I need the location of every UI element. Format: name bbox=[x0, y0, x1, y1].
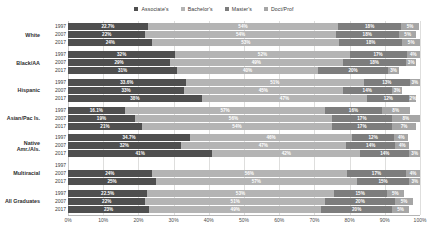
bar-segment-associates[interactable]: 22% bbox=[68, 31, 145, 38]
bar-segment-masters[interactable]: 12% bbox=[367, 95, 409, 102]
bar-segment-bachelors[interactable]: 57% bbox=[125, 107, 326, 114]
bar-segment-doctprof[interactable]: 4% bbox=[394, 134, 408, 141]
bar-segment-associates[interactable]: 22.5% bbox=[68, 190, 147, 197]
legend-item-associates[interactable]: Associate's bbox=[134, 6, 168, 12]
stacked-bar-row[interactable]: 22.5%53%15%5% bbox=[68, 190, 420, 197]
bar-segment-bachelors[interactable]: 40% bbox=[177, 67, 318, 74]
bar-segment-associates[interactable]: 33% bbox=[68, 87, 184, 94]
bar-segment-bachelors[interactable]: 56% bbox=[135, 115, 332, 122]
bar-segment-masters[interactable]: 14% bbox=[360, 150, 409, 157]
bar-segment-doctprof[interactable]: 3% bbox=[392, 87, 403, 94]
bar-segment-bachelors[interactable]: 51% bbox=[186, 79, 364, 86]
bar-segment-masters[interactable]: 13% bbox=[364, 79, 409, 86]
bar-segment-associates[interactable]: 33.6% bbox=[68, 79, 186, 86]
bar-segment-masters[interactable]: 17% bbox=[332, 115, 392, 122]
bar-segment-masters[interactable]: 18% bbox=[339, 39, 402, 46]
stacked-bar-row[interactable]: 32%52%17%4% bbox=[68, 51, 420, 58]
bar-segment-bachelors[interactable]: 49% bbox=[149, 206, 321, 213]
bar-segment-associates[interactable]: 32% bbox=[68, 142, 181, 149]
bar-segment-associates[interactable]: 16.1% bbox=[68, 107, 125, 114]
bar-segment-masters[interactable]: 20% bbox=[325, 198, 395, 205]
stacked-bar-row[interactable]: 32%47%14%4% bbox=[68, 142, 420, 149]
bar-segment-doctprof[interactable]: 3% bbox=[388, 67, 399, 74]
bar-segment-masters[interactable]: 15% bbox=[334, 190, 387, 197]
stacked-bar-row[interactable]: 34.7%46%12%4% bbox=[68, 134, 420, 141]
stacked-bar-row[interactable] bbox=[68, 162, 420, 169]
bar-segment-bachelors[interactable]: 53% bbox=[152, 39, 339, 46]
stacked-bar-row[interactable]: 22.7%54%18%5% bbox=[68, 23, 420, 30]
bar-segment-doctprof[interactable]: 3% bbox=[410, 79, 420, 86]
bar-segment-associates[interactable]: 19% bbox=[68, 115, 135, 122]
stacked-bar-row[interactable]: 19%56%17%8% bbox=[68, 115, 420, 122]
stacked-bar-row[interactable]: 24%53%18%5% bbox=[68, 39, 420, 46]
legend-item-doctprof[interactable]: Doct/Prof bbox=[264, 6, 294, 12]
bar-segment-bachelors[interactable]: 47% bbox=[202, 95, 367, 102]
bar-segment-masters[interactable]: 18% bbox=[343, 59, 406, 66]
bar-segment-associates[interactable]: 25% bbox=[68, 178, 156, 185]
bar-segment-associates[interactable]: 32% bbox=[68, 51, 175, 58]
bar-segment-doctprof[interactable]: 4% bbox=[395, 142, 409, 149]
stacked-bar-row[interactable]: 24%56%17%4% bbox=[68, 170, 420, 177]
bar-segment-masters[interactable]: 12% bbox=[352, 134, 394, 141]
bar-segment-bachelors[interactable]: 54% bbox=[148, 23, 338, 30]
stacked-bar-row[interactable]: 25%57%15%3% bbox=[68, 178, 420, 185]
bar-segment-doctprof[interactable]: 8% bbox=[382, 107, 410, 114]
bar-segment-bachelors[interactable]: 51% bbox=[145, 198, 325, 205]
bar-segment-bachelors[interactable]: 56% bbox=[152, 170, 347, 177]
bar-segment-doctprof[interactable]: 2% bbox=[409, 95, 416, 102]
bar-segment-bachelors[interactable]: 45% bbox=[184, 87, 342, 94]
bar-segment-associates[interactable]: 34.7% bbox=[68, 134, 190, 141]
stacked-bar-row[interactable]: 23%49%20%5% bbox=[68, 206, 420, 213]
bar-segment-bachelors[interactable]: 54% bbox=[145, 31, 335, 38]
bar-segment-doctprof[interactable]: 7% bbox=[392, 123, 417, 130]
bar-segment-associates[interactable]: 21% bbox=[68, 123, 142, 130]
bar-segment-masters[interactable]: 17% bbox=[347, 170, 406, 177]
bar-segment-bachelors[interactable]: 46% bbox=[190, 134, 352, 141]
bar-segment-masters[interactable]: 20% bbox=[318, 67, 388, 74]
bar-segment-doctprof[interactable]: 3% bbox=[406, 59, 417, 66]
bar-segment-associates[interactable]: 22% bbox=[68, 198, 145, 205]
bar-segment-masters[interactable]: 15% bbox=[357, 178, 410, 185]
bar-segment-doctprof[interactable]: 5% bbox=[387, 190, 405, 197]
stacked-bar-row[interactable]: 31%40%20%3% bbox=[68, 67, 420, 74]
bar-segment-doctprof[interactable]: 4% bbox=[406, 170, 420, 177]
bar-segment-doctprof[interactable]: 5% bbox=[401, 23, 419, 30]
stacked-bar-row[interactable]: 41%42%14%3% bbox=[68, 150, 420, 157]
bar-segment-masters[interactable]: 14% bbox=[343, 87, 392, 94]
bar-segment-doctprof[interactable]: 5% bbox=[395, 198, 413, 205]
bar-segment-bachelors[interactable]: 53% bbox=[147, 190, 334, 197]
bar-segment-bachelors[interactable]: 49% bbox=[170, 59, 342, 66]
bar-segment-doctprof[interactable]: 5% bbox=[392, 206, 410, 213]
bar-segment-associates[interactable]: 24% bbox=[68, 39, 152, 46]
stacked-bar-row[interactable]: 38%47%12%2% bbox=[68, 95, 420, 102]
stacked-bar-row[interactable]: 16.1%57%16%8% bbox=[68, 107, 420, 114]
bar-segment-doctprof[interactable]: 3% bbox=[409, 150, 420, 157]
stacked-bar-row[interactable]: 22%54%18%5% bbox=[68, 31, 420, 38]
bar-segment-masters[interactable]: 18% bbox=[336, 31, 399, 38]
bar-segment-masters[interactable]: 14% bbox=[346, 142, 395, 149]
bar-segment-masters[interactable]: 17% bbox=[332, 123, 392, 130]
legend-item-bachelors[interactable]: Bachelor's bbox=[181, 6, 213, 12]
bar-segment-doctprof[interactable]: 4% bbox=[407, 51, 420, 58]
bar-segment-associates[interactable]: 31% bbox=[68, 67, 177, 74]
stacked-bar-row[interactable]: 33%45%14%3% bbox=[68, 87, 420, 94]
bar-segment-bachelors[interactable]: 42% bbox=[212, 150, 360, 157]
stacked-bar-row[interactable]: 21%54%17%7% bbox=[68, 123, 420, 130]
stacked-bar-row[interactable]: 33.6%51%13%3% bbox=[68, 79, 420, 86]
stacked-bar-row[interactable]: 22%51%20%5% bbox=[68, 198, 420, 205]
bar-segment-doctprof[interactable]: 5% bbox=[402, 39, 420, 46]
bar-segment-associates[interactable]: 22.7% bbox=[68, 23, 148, 30]
bar-segment-associates[interactable]: 38% bbox=[68, 95, 202, 102]
bar-segment-masters[interactable]: 17% bbox=[350, 51, 407, 58]
bar-segment-associates[interactable]: 23% bbox=[68, 206, 149, 213]
bar-segment-masters[interactable]: 16% bbox=[325, 107, 381, 114]
stacked-bar-row[interactable]: 29%49%18%3% bbox=[68, 59, 420, 66]
bar-segment-associates[interactable]: 29% bbox=[68, 59, 170, 66]
legend-item-masters[interactable]: Master's bbox=[225, 6, 252, 12]
bar-segment-masters[interactable]: 20% bbox=[321, 206, 391, 213]
bar-segment-associates[interactable]: 41% bbox=[68, 150, 212, 157]
bar-segment-masters[interactable]: 18% bbox=[338, 23, 401, 30]
bar-segment-bachelors[interactable]: 54% bbox=[142, 123, 332, 130]
bar-segment-doctprof[interactable]: 5% bbox=[399, 31, 417, 38]
bar-segment-bachelors[interactable]: 57% bbox=[156, 178, 357, 185]
